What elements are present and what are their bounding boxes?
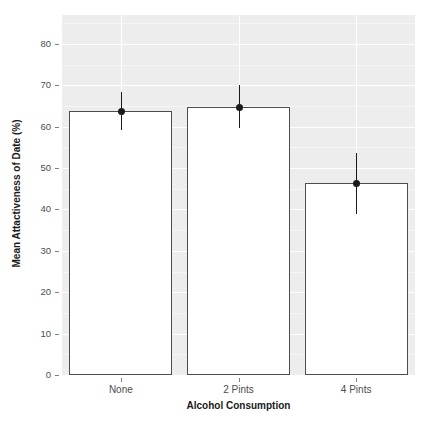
x-axis-title: Alcohol Consumption xyxy=(62,400,415,411)
y-axis-title: Mean Attactiveness of Date (%) xyxy=(11,94,22,294)
x-axis-tick-mark xyxy=(356,378,357,382)
x-axis: None2 Pints4 Pints xyxy=(0,0,430,426)
x-axis-tick-label: 2 Pints xyxy=(189,384,289,396)
bar-chart-figure: 01020304050607080 None2 Pints4 Pints Mea… xyxy=(0,0,430,426)
x-axis-tick-label: 4 Pints xyxy=(306,384,406,396)
x-axis-tick-mark xyxy=(121,378,122,382)
x-axis-tick-mark xyxy=(239,378,240,382)
x-axis-tick-label: None xyxy=(71,384,171,396)
